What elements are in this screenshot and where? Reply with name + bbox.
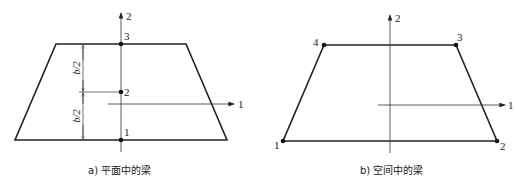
panel-a-caption: a) 平面中的梁 (88, 164, 151, 176)
panel-b-node-2 (495, 139, 500, 144)
panel-a-dim-label-lower: b/2 (71, 110, 82, 123)
panel-b-axis-1-label: 1 (508, 99, 514, 111)
panel-a-node-3 (119, 42, 124, 47)
panel-b-node-1 (281, 139, 286, 144)
panel-b-node-4 (322, 43, 327, 48)
panel-b-node-2-label: 2 (500, 140, 506, 152)
panel-a-node-2 (119, 90, 124, 95)
panel-a-node-3-label: 3 (124, 30, 130, 42)
panel-b-node-3-label: 3 (457, 31, 463, 43)
panel-a-axis-2-label: 2 (126, 10, 132, 22)
panel-a-plane-beam: 2 1 b/2 b/2 3 2 1 a) 平面中的梁 (15, 10, 244, 176)
panel-a-node-1-label: 1 (124, 126, 130, 138)
panel-b-node-4-label: 4 (313, 36, 319, 48)
panel-b-space-beam: 2 1 4 3 1 2 b) 空间中的梁 (274, 12, 514, 176)
panel-b-node-3 (454, 43, 459, 48)
panel-a-dim-label-upper: b/2 (71, 62, 82, 75)
panel-a-node-2-label: 2 (124, 86, 130, 98)
panel-a-axis-1-label: 1 (238, 98, 244, 110)
diagram-canvas: 2 1 b/2 b/2 3 2 1 a) 平面中的梁 2 1 4 3 1 (0, 0, 515, 192)
panel-b-axis-2-label: 2 (395, 12, 401, 24)
panel-b-node-1-label: 1 (274, 139, 280, 151)
panel-b-caption: b) 空间中的梁 (360, 164, 423, 176)
panel-a-node-1 (119, 138, 124, 143)
